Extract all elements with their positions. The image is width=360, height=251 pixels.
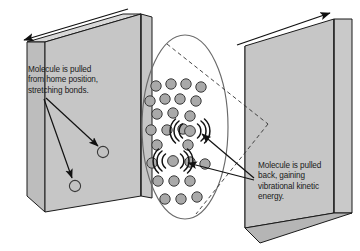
stretched-molecule-lower xyxy=(69,180,80,191)
molecule xyxy=(168,108,178,118)
molecule xyxy=(185,176,195,186)
molecule xyxy=(146,125,156,135)
molecule xyxy=(151,81,161,91)
molecule xyxy=(181,79,191,89)
molecule xyxy=(166,79,176,89)
vibrating-molecule-core xyxy=(185,126,196,137)
molecule xyxy=(152,140,162,150)
stretched-molecule-upper xyxy=(97,146,108,157)
vibration-wave xyxy=(201,121,206,141)
right-annotation-text: Molecule is pulled back, gaining vibrati… xyxy=(258,161,356,203)
vibrating-molecule-core xyxy=(168,156,179,167)
left-wall-front-face xyxy=(45,14,141,212)
right-wall xyxy=(245,19,352,243)
molecule xyxy=(145,96,155,106)
vibration-wave xyxy=(162,154,165,168)
vibration-wave xyxy=(157,151,162,171)
vibrating-molecule-upper xyxy=(170,119,210,143)
vibration-wave xyxy=(181,154,184,168)
molecule xyxy=(147,158,157,168)
molecule-grid xyxy=(145,79,210,204)
molecule xyxy=(175,94,185,104)
molecule xyxy=(169,176,179,186)
molecule xyxy=(185,111,195,121)
left-annotation-text: Molecule is pulled from home position, s… xyxy=(28,65,136,96)
diagram-svg xyxy=(0,0,360,251)
molecule xyxy=(152,109,162,119)
molecule xyxy=(153,176,163,186)
diagram-canvas: Molecule is pulled from home position, s… xyxy=(0,0,360,251)
vibration-wave xyxy=(198,124,201,138)
molecule xyxy=(191,96,201,106)
molecule xyxy=(192,192,202,202)
molecule xyxy=(176,194,186,204)
molecule xyxy=(160,94,170,104)
molecule xyxy=(160,194,170,204)
left-wall xyxy=(27,14,152,212)
molecule xyxy=(196,82,206,92)
